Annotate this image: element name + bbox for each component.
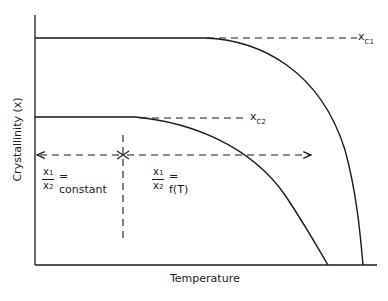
x-axis-label: Temperature — [170, 272, 240, 285]
crystallinity-curve-1 — [35, 38, 363, 265]
xc2-label: xC2 — [250, 110, 266, 123]
diagram-canvas — [0, 0, 388, 301]
y-axis-label: Crystallinity (x) — [11, 85, 24, 195]
ratio-fraction: x1 x2 — [152, 166, 164, 193]
ratio-fraction: x1 x2 — [42, 166, 54, 193]
xc1-label: xC1 — [358, 30, 374, 43]
